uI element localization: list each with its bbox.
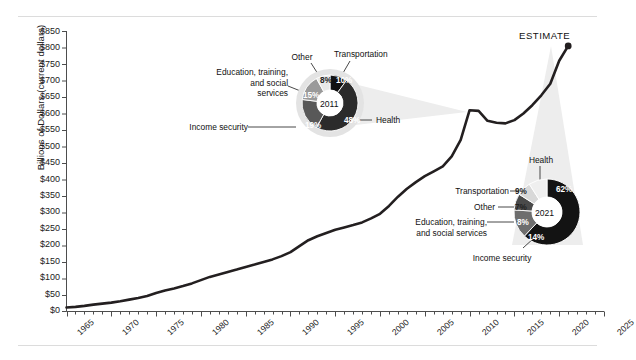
donut2021-education-pct: 8% <box>517 219 529 227</box>
x-tick-marks <box>68 312 605 317</box>
donut2011-health-label: Health <box>376 115 400 126</box>
donut2021-other-pct: 7% <box>515 204 527 212</box>
data-endpoint-marker <box>565 43 572 50</box>
donut2021-education-line1: Education, training, <box>415 217 487 227</box>
y-tick-marks <box>62 32 67 312</box>
donut2021-health-pct: 62% <box>556 186 572 194</box>
donut2011-transportation-pct: 10% <box>336 77 352 85</box>
donut2011-education-line2: and social <box>250 78 288 88</box>
donut2011-education-pct: 15% <box>303 92 319 100</box>
donut2011-education-line3: services <box>257 88 288 98</box>
donut2011-transportation-label: Transportation <box>334 49 388 60</box>
donut2021-education-line2: and social services <box>416 228 487 238</box>
donut2011-education-label: Education, training, and social services <box>178 67 288 99</box>
donut2021-health-label: Health <box>521 155 561 166</box>
donut2011-income-label: Income security <box>163 122 248 133</box>
donut2021-income-label: Income security <box>460 253 544 264</box>
donut2021-education-label: Education, training, and social services <box>399 217 487 238</box>
donut2011-year-label: 2011 <box>320 99 338 109</box>
donut2021-transportation-pct: 9% <box>515 188 527 196</box>
donut2021-transportation-label: Transportation <box>435 186 509 197</box>
x-tick-label: 2025 <box>615 317 636 337</box>
donut2011-health-pct: 48% <box>344 117 360 125</box>
donut2011-other-label: Other <box>283 52 321 63</box>
donut2011-income-pct: 19% <box>305 122 321 130</box>
donut2021-income-pct: 14% <box>528 234 544 242</box>
donut2011-other-pct: 8% <box>320 77 332 85</box>
donut2011-education-line1: Education, training, <box>216 67 288 77</box>
donut2021-other-label: Other <box>455 202 495 213</box>
donut2021-year-label: 2021 <box>535 208 554 218</box>
